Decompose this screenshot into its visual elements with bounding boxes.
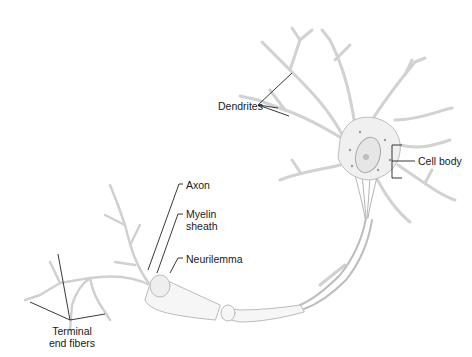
label-terminal-line2: end fibers bbox=[44, 337, 100, 349]
label-dendrites: Dendrites bbox=[218, 100, 263, 112]
cell-body-shape bbox=[338, 117, 400, 180]
leader-neurilemma bbox=[170, 258, 183, 273]
label-terminal-line1: Terminal bbox=[44, 325, 100, 337]
label-axon: Axon bbox=[186, 179, 210, 191]
leader-terminal bbox=[30, 254, 105, 320]
leader-myelin bbox=[157, 214, 183, 273]
label-terminal-end-fibers: Terminal end fibers bbox=[44, 325, 100, 349]
neuron-diagram: Dendrites Cell body Axon Myelin sheath N… bbox=[0, 0, 472, 357]
leader-axon bbox=[148, 184, 183, 270]
myelin-segments bbox=[145, 275, 304, 322]
label-myelin-line1: Myelin bbox=[186, 208, 218, 220]
label-myelin-line2: sheath bbox=[186, 220, 218, 232]
neuron-illustration bbox=[0, 0, 472, 357]
axon bbox=[300, 218, 372, 309]
label-cell-body: Cell body bbox=[418, 155, 462, 167]
label-myelin-sheath: Myelin sheath bbox=[186, 208, 218, 232]
label-neurilemma: Neurilemma bbox=[186, 253, 243, 265]
